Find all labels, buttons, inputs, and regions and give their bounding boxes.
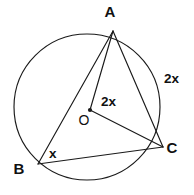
radius-oc-line (90, 110, 163, 147)
inscribed-angle-label: x (49, 146, 57, 161)
geometry-diagram: A B C O 2x 2x x (0, 0, 194, 195)
central-angle-label: 2x (101, 94, 117, 109)
vertex-label-b: B (14, 160, 25, 177)
center-label-o: O (79, 112, 90, 128)
vertex-label-a: A (105, 3, 116, 20)
chord-ac-line (113, 31, 163, 147)
circle-geometry-figure: A B C O 2x 2x x (0, 0, 194, 195)
circle-outline (14, 34, 160, 180)
arc-measure-label: 2x (164, 71, 180, 86)
vertex-label-c: C (167, 139, 178, 156)
chord-bc-line (38, 147, 163, 164)
